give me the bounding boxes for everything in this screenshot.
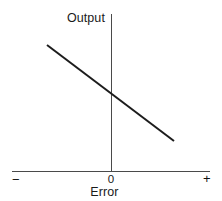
- x-axis-label: Error: [0, 186, 222, 199]
- y-axis-label: Output: [67, 12, 105, 25]
- x-axis-tick-zero-text: 0: [108, 173, 114, 185]
- data-series-line: [47, 45, 174, 141]
- chart-figure: Output − + 0 Error: [0, 0, 222, 201]
- chart-plot-area: [0, 0, 222, 201]
- x-axis-tick-zero: 0: [0, 174, 222, 186]
